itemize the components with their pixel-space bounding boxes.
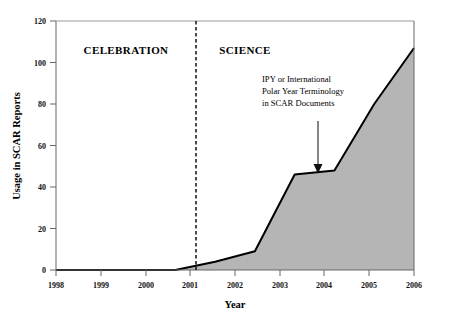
x-axis-tick-labels: 1998 1999 2000 2001 2002 2003 2004 2005 … [48, 281, 422, 290]
x-tick-label: 2006 [406, 281, 422, 290]
y-axis-tick-labels: 0 20 40 60 80 100 120 [34, 17, 46, 275]
y-tick-label: 40 [38, 183, 46, 192]
x-tick-label: 2004 [316, 281, 332, 290]
x-tick-label: 1999 [93, 281, 109, 290]
y-tick-label: 120 [34, 17, 46, 26]
chart-canvas: 0 20 40 60 80 100 120 1998 1999 2000 200… [0, 0, 464, 318]
y-tick-label: 0 [42, 266, 46, 275]
callout-line-2: Polar Year Terminology [262, 86, 345, 96]
y-tick-label: 100 [34, 59, 46, 68]
chart-figure: 0 20 40 60 80 100 120 1998 1999 2000 200… [0, 0, 464, 318]
x-tick-label: 2003 [272, 281, 288, 290]
y-axis-title: Usage in SCAR Reports [11, 92, 22, 200]
y-tick-label: 80 [38, 100, 46, 109]
x-axis-title: Year [225, 299, 246, 310]
callout-line-1: IPY or International [262, 74, 332, 84]
celebration-region-label: CELEBRATION [84, 44, 169, 56]
x-tick-label: 2005 [361, 281, 377, 290]
x-tick-label: 2002 [227, 281, 243, 290]
callout-line-3: in SCAR Documents [262, 98, 335, 108]
science-region-label: SCIENCE [219, 44, 271, 56]
x-tick-label: 1998 [48, 281, 64, 290]
x-tick-label: 2000 [138, 281, 154, 290]
x-tick-label: 2001 [182, 281, 198, 290]
y-axis-ticks [50, 21, 56, 270]
y-tick-label: 60 [38, 142, 46, 151]
y-tick-label: 20 [38, 225, 46, 234]
